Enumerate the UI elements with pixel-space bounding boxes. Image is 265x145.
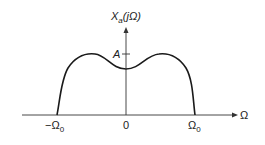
origin-label: 0	[123, 119, 129, 131]
neg-cutoff-label: −Ω0	[45, 119, 65, 134]
y-axis-arrow-icon	[124, 27, 129, 33]
spectrum-diagram: Xa(jΩ) A Ω −Ω0 0 Ω0	[0, 0, 265, 145]
x-axis-arrow-icon	[232, 113, 238, 118]
pos-cutoff-label: Ω0	[188, 119, 201, 134]
amplitude-label: A	[112, 48, 120, 60]
y-axis-label: Xa(jΩ)	[110, 10, 141, 25]
x-axis-label: Ω	[240, 109, 248, 121]
